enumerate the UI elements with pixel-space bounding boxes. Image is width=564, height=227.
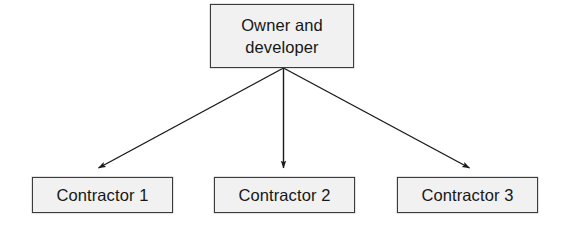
diagram-canvas: Owner and developer Contractor 1 Contrac… xyxy=(0,0,564,227)
node-owner-developer: Owner and developer xyxy=(210,4,354,68)
node-contractor-2-label: Contractor 2 xyxy=(239,184,331,206)
node-contractor-3-label: Contractor 3 xyxy=(422,184,514,206)
arrow-owner-to-contractor-1 xyxy=(99,68,284,168)
node-owner-developer-label: Owner and developer xyxy=(241,14,323,59)
node-contractor-2: Contractor 2 xyxy=(214,177,355,213)
arrow-owner-to-contractor-3 xyxy=(284,68,470,168)
node-contractor-1-label: Contractor 1 xyxy=(57,184,149,206)
node-contractor-3: Contractor 3 xyxy=(397,177,538,213)
node-contractor-1: Contractor 1 xyxy=(32,177,173,213)
